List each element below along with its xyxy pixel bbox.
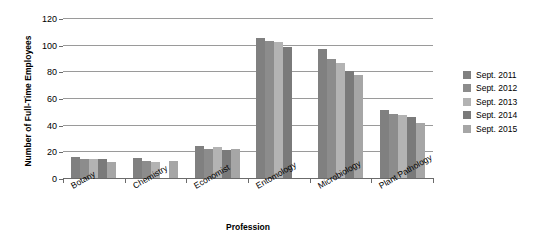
- bar-group: [63, 18, 125, 178]
- bar-group: [186, 18, 248, 178]
- legend-label: Sept. 2011: [476, 70, 517, 80]
- legend-label: Sept. 2013: [476, 97, 517, 107]
- bar: [274, 42, 283, 178]
- y-tick-label: 100: [42, 41, 57, 51]
- legend-label: Sept. 2014: [476, 110, 517, 120]
- x-axis-title: Profession: [63, 222, 433, 232]
- bar-chart: Number of Full-Time Employees 1201008060…: [0, 0, 535, 244]
- legend-label: Sept. 2012: [476, 83, 517, 93]
- bar: [256, 38, 265, 178]
- bar-group: [125, 18, 187, 178]
- y-tick-label: 0: [52, 174, 57, 184]
- legend-item[interactable]: Sept. 2011: [463, 68, 517, 82]
- bar: [283, 47, 292, 178]
- bar: [336, 63, 345, 178]
- bar: [195, 146, 204, 178]
- bar: [107, 162, 116, 178]
- y-tick-label: 60: [47, 94, 57, 104]
- legend-item[interactable]: Sept. 2015: [463, 122, 517, 136]
- bar: [169, 161, 178, 178]
- bar: [318, 49, 327, 178]
- bar: [380, 110, 389, 178]
- legend-item[interactable]: Sept. 2013: [463, 95, 517, 109]
- plot-area: 120100806040200: [63, 18, 433, 178]
- bar-group: [310, 18, 372, 178]
- x-tick-mark: [433, 178, 434, 183]
- legend-item[interactable]: Sept. 2012: [463, 82, 517, 96]
- y-tick-label: 80: [47, 67, 57, 77]
- legend-swatch: [463, 98, 471, 106]
- legend-swatch: [463, 125, 471, 133]
- bars-layer: [63, 18, 433, 178]
- legend-swatch: [463, 84, 471, 92]
- legend-swatch: [463, 111, 471, 119]
- x-axis-labels: BotanyChemistryEconomistEntomologyMicrob…: [63, 182, 433, 222]
- bar-group: [248, 18, 310, 178]
- legend: Sept. 2011Sept. 2012Sept. 2013Sept. 2014…: [463, 68, 517, 136]
- y-tick-label: 120: [42, 14, 57, 24]
- y-tick-label: 20: [47, 147, 57, 157]
- legend-item[interactable]: Sept. 2014: [463, 109, 517, 123]
- bar: [327, 59, 336, 178]
- legend-swatch: [463, 71, 471, 79]
- bar: [231, 149, 240, 178]
- y-axis-title: Number of Full-Time Employees: [23, 11, 33, 191]
- y-tick-label: 40: [47, 121, 57, 131]
- bar: [389, 114, 398, 178]
- bar: [265, 41, 274, 178]
- bar: [98, 159, 107, 178]
- legend-label: Sept. 2015: [476, 124, 517, 134]
